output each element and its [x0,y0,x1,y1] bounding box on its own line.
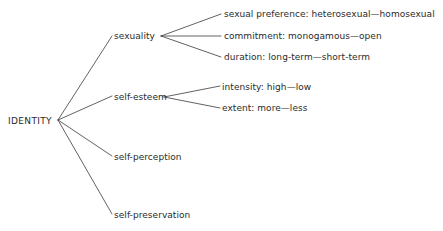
edge-self-esteem-to-extent [164,97,220,108]
edge-identity-to-self-perception [58,120,112,156]
node-self-esteem: self-esteem [114,92,167,103]
edge-identity-to-self-preservation [58,120,112,214]
edge-self-esteem-to-intensity [164,86,220,97]
node-intensity: intensity: high—low [222,82,311,93]
node-self-preservation: self-preservation [114,210,190,221]
edge-identity-to-sexuality [58,36,112,120]
node-identity: IDENTITY [8,116,52,127]
node-sexuality: sexuality [114,31,155,42]
node-duration: duration: long-term—short-term [224,52,370,63]
edge-sexuality-to-duration [161,36,221,57]
node-self-perception: self-perception [114,152,182,163]
edge-sexuality-to-sexual-preference [161,14,221,36]
identity-tree-diagram: IDENTITY sexuality sexual preference: he… [0,0,443,231]
node-extent: extent: more—less [222,103,307,114]
node-sexual-preference: sexual preference: heterosexual—homosexu… [224,9,435,20]
node-commitment: commitment: monogamous—open [224,31,382,42]
